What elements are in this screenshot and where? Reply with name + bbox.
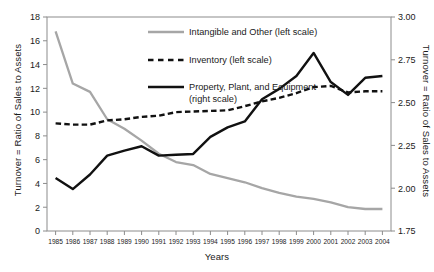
x-axis-tick-label: 1992 xyxy=(169,238,184,245)
y-axis-left-tick-label: 2 xyxy=(35,203,40,213)
x-axis-tick-label: 1991 xyxy=(151,238,166,245)
y-axis-left-tick-label: 12 xyxy=(30,84,40,94)
y-axis-left-tick-label: 10 xyxy=(30,107,40,117)
y-axis-left-tick-label: 14 xyxy=(30,60,40,70)
y-axis-left-tick-label: 4 xyxy=(35,179,40,189)
x-axis-tick-label: 1996 xyxy=(237,238,252,245)
legend-label-2: Property, Plant, and Equipment xyxy=(189,82,316,92)
x-axis-tick-label: 1993 xyxy=(186,238,201,245)
x-axis-tick-label: 1988 xyxy=(100,238,115,245)
x-axis-tick-label: 1994 xyxy=(203,238,218,245)
series-line-2 xyxy=(56,53,383,189)
y-axis-right-tick-label: 2.75 xyxy=(398,55,416,65)
y-axis-left-tick-label: 0 xyxy=(35,226,40,236)
legend-label-0: Intangible and Other (left scale) xyxy=(189,27,317,37)
x-axis-tick-label: 1999 xyxy=(289,238,304,245)
y-axis-left-tick-label: 6 xyxy=(35,155,40,165)
x-axis-tick-label: 1998 xyxy=(272,238,287,245)
y-axis-right-tick-label: 2.00 xyxy=(398,184,416,194)
chart-figure: Turnover = Ratio of Sales to Assets Turn… xyxy=(0,0,434,272)
x-axis-tick-label: 2000 xyxy=(306,238,321,245)
y-axis-right-tick-label: 2.50 xyxy=(398,98,416,108)
x-axis-tick-label: 2001 xyxy=(323,238,338,245)
x-axis-tick-label: 2002 xyxy=(341,238,356,245)
x-axis-tick-label: 1990 xyxy=(134,238,149,245)
x-axis-tick-label: 2003 xyxy=(358,238,373,245)
x-axis-tick-label: 1989 xyxy=(117,238,132,245)
x-axis-tick-label: 2004 xyxy=(375,238,390,245)
legend-label-2-line2: (right scale) xyxy=(189,94,237,104)
y-axis-right-tick-label: 2.25 xyxy=(398,141,416,151)
y-axis-left-tick-label: 18 xyxy=(30,12,40,22)
chart-plot-area: 0246810121416181.752.002.252.502.753.001… xyxy=(0,0,434,272)
x-axis-tick-label: 1985 xyxy=(48,238,63,245)
legend-label-1: Inventory (left scale) xyxy=(189,55,272,65)
y-axis-left-tick-label: 16 xyxy=(30,36,40,46)
y-axis-right-tick-label: 1.75 xyxy=(398,226,416,236)
plot-frame xyxy=(47,17,391,231)
x-axis-tick-label: 1997 xyxy=(255,238,270,245)
y-axis-right-tick-label: 3.00 xyxy=(398,12,416,22)
x-axis-tick-label: 1986 xyxy=(65,238,80,245)
y-axis-left-tick-label: 8 xyxy=(35,131,40,141)
x-axis-tick-label: 1995 xyxy=(220,238,235,245)
x-axis-tick-label: 1987 xyxy=(83,238,98,245)
